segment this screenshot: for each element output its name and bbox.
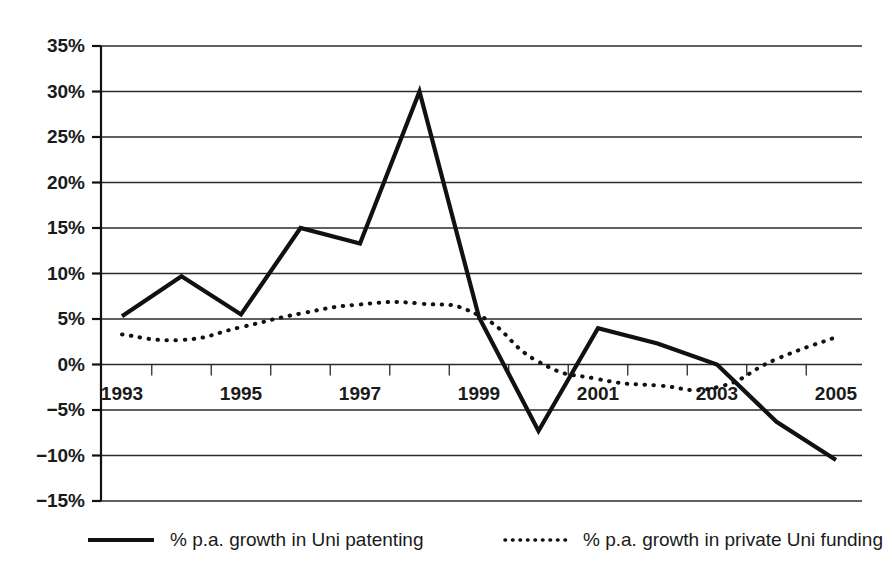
y-axis-tick-label: 25% bbox=[47, 126, 85, 147]
y-axis-tick-label: −10% bbox=[36, 445, 85, 466]
y-axis-tick-label: −5% bbox=[46, 399, 85, 420]
x-axis-tick-label: 1995 bbox=[220, 383, 263, 404]
data-series bbox=[122, 92, 836, 461]
legend-label: % p.a. growth in private Uni funding bbox=[583, 529, 883, 550]
x-axis-tick-label: 1993 bbox=[101, 383, 143, 404]
line-chart: 35%30%25%20%15%10%5%0%−5%−10%−15% 199319… bbox=[0, 0, 892, 578]
y-axis-tick-label: 15% bbox=[47, 217, 85, 238]
chart-container: 35%30%25%20%15%10%5%0%−5%−10%−15% 199319… bbox=[0, 0, 892, 578]
y-axis-tick-label: −15% bbox=[36, 490, 85, 511]
x-axis-tick-label: 1997 bbox=[339, 383, 381, 404]
y-axis-tick-labels: 35%30%25%20%15%10%5%0%−5%−10%−15% bbox=[36, 35, 85, 511]
x-tick-marks bbox=[152, 365, 807, 376]
legend-label: % p.a. growth in Uni patenting bbox=[170, 529, 424, 550]
series-line-uni-patenting bbox=[122, 92, 836, 461]
y-axis-tick-label: 10% bbox=[47, 263, 85, 284]
y-tick-marks bbox=[92, 46, 101, 501]
x-axis-tick-label: 2005 bbox=[815, 383, 858, 404]
x-axis-tick-label: 2001 bbox=[577, 383, 620, 404]
chart-legend: % p.a. growth in Uni patenting% p.a. gro… bbox=[88, 529, 883, 550]
gridlines bbox=[101, 46, 862, 501]
y-axis-tick-label: 20% bbox=[47, 172, 85, 193]
y-axis-tick-label: 30% bbox=[47, 81, 85, 102]
y-axis-tick-label: 5% bbox=[58, 308, 86, 329]
y-axis-tick-label: 35% bbox=[47, 35, 85, 56]
y-axis-tick-label: 0% bbox=[58, 354, 86, 375]
x-axis-tick-label: 1999 bbox=[458, 383, 500, 404]
